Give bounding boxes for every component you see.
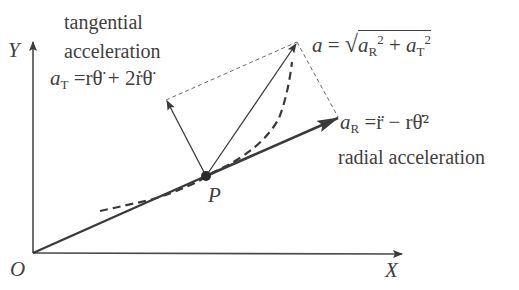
origin-label: O	[10, 259, 25, 280]
tangential-formula-lhs: a	[50, 66, 61, 90]
sqrt-term1-sup: 2	[377, 32, 384, 47]
tangential-formula-rhs: =rθ̈ + 2ṙθ̈	[74, 66, 153, 90]
total-formula: a = √aR2 + aT2	[312, 32, 431, 56]
total-formula-eq: =	[328, 33, 340, 57]
tangential-acceleration-arrow	[167, 101, 206, 176]
sqrt-term2: a	[406, 33, 417, 57]
radial-formula-sub: R	[351, 121, 360, 136]
radial-formula-lhs: a	[340, 110, 351, 134]
tangential-formula: aT =rθ̈ + 2ṙθ̈	[50, 68, 153, 89]
x-axis-label: X	[385, 260, 398, 281]
radial-formula-rhs: =r̈ − rθ̇²	[364, 110, 429, 134]
sqrt-radicand: aR2 + aT2	[358, 30, 431, 57]
position-vector-line	[33, 176, 206, 253]
sqrt-term2-sup: 2	[424, 32, 431, 47]
sqrt-term1: a	[358, 33, 369, 57]
sqrt-term1-sub: R	[369, 44, 378, 59]
tangential-formula-sub: T	[61, 77, 69, 92]
total-formula-lhs: a	[312, 33, 323, 57]
radial-title: radial acceleration	[338, 147, 485, 167]
radial-formula: aR =r̈ − rθ̇²	[340, 112, 429, 133]
tangential-title-line2: acceleration	[64, 41, 161, 61]
sqrt-sign: √	[345, 31, 358, 57]
sqrt-plus: +	[389, 33, 401, 57]
x-axis	[33, 253, 402, 254]
point-p-dot	[201, 171, 211, 181]
point-p-label: P	[208, 185, 221, 206]
y-axis-label: Y	[8, 40, 20, 61]
tangential-title-line1: tangential	[64, 12, 143, 32]
